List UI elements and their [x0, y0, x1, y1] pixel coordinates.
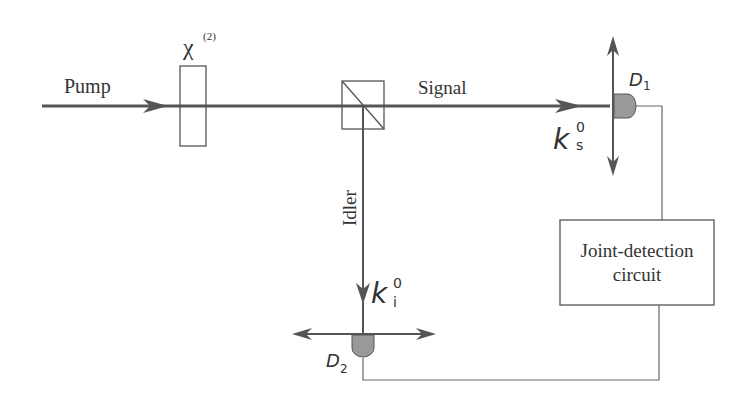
ki-label: k	[371, 277, 389, 310]
d2-wire	[363, 305, 659, 380]
ki-sup: 0	[393, 275, 402, 291]
circuit-label-line1: Joint-detection	[581, 240, 694, 261]
joint-detection-circuit	[560, 220, 714, 305]
detector-d1	[614, 94, 636, 118]
idler-label: Idler	[339, 189, 360, 226]
d1-sub: 1	[643, 79, 651, 93]
d2-sub: 2	[340, 362, 348, 376]
detector-d2	[352, 335, 374, 357]
circuit-label-line2: circuit	[613, 264, 662, 285]
d1-label: D	[629, 69, 643, 90]
signal-label: Signal	[418, 77, 467, 98]
pump-beam	[42, 99, 610, 113]
d2-label: D	[326, 350, 340, 371]
d1-wire	[636, 106, 662, 220]
pump-label: Pump	[64, 75, 111, 98]
ks-sub: s	[576, 137, 583, 153]
crystal-superscript: (2)	[203, 30, 216, 43]
ks-label: k	[553, 123, 571, 156]
spdc-setup-diagram: Pump χ (2) Signal k s 0 D 1 Joint-detect…	[0, 0, 750, 403]
ks-sup: 0	[576, 119, 585, 135]
ki-sub: i	[393, 294, 397, 310]
crystal-label: χ	[182, 34, 194, 60]
